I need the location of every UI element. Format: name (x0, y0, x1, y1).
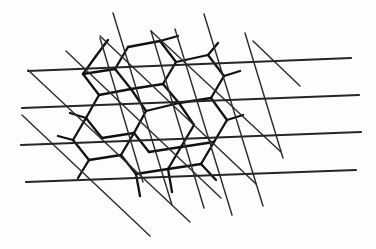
figure-root (0, 0, 376, 249)
canvas-background (0, 0, 376, 249)
figure-canvas (0, 0, 376, 249)
